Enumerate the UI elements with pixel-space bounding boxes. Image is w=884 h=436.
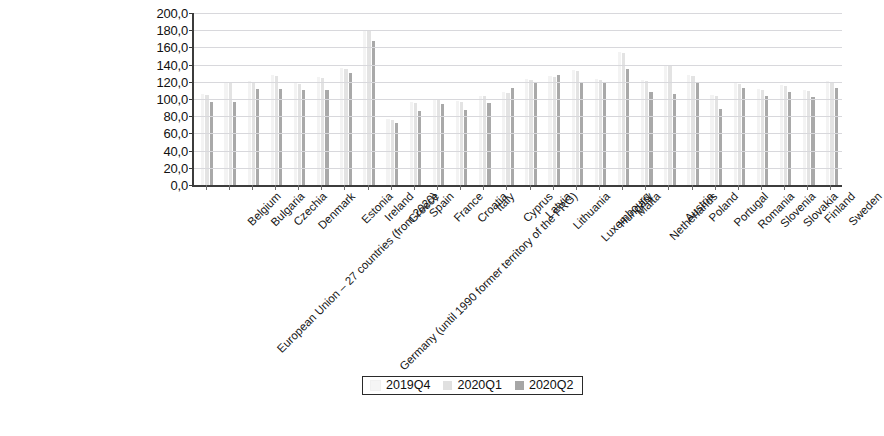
- gridline: [194, 168, 842, 169]
- y-axis-tick-label: 120,0: [140, 75, 188, 88]
- y-axis-tick-labels: 200,0180,0160,0140,0120,0100,080,060,040…: [140, 7, 188, 187]
- gridline: [194, 116, 842, 117]
- bar: [715, 96, 718, 185]
- bar: [761, 90, 764, 185]
- legend-swatch-2020q1: [443, 381, 452, 390]
- bar: [757, 89, 760, 185]
- bar: [464, 110, 467, 185]
- bar: [649, 92, 652, 185]
- gridline: [194, 65, 842, 66]
- y-axis-tick-label: 0,0: [140, 179, 188, 192]
- bar: [391, 120, 394, 185]
- bar: [483, 96, 486, 185]
- bar: [780, 85, 783, 185]
- y-axis-tick: [189, 116, 194, 117]
- y-axis-tick-label: 20,0: [140, 161, 188, 174]
- x-axis-tick-labels: European Union – 27 countries (from 2020…: [192, 188, 857, 368]
- y-axis-tick: [189, 65, 194, 66]
- y-axis-tick: [189, 185, 194, 186]
- bar: [618, 52, 621, 185]
- bar: [279, 89, 282, 185]
- y-axis-tick-label: 80,0: [140, 110, 188, 123]
- bar: [719, 109, 722, 185]
- bar: [395, 123, 398, 185]
- bar: [210, 102, 213, 185]
- bar: [302, 90, 305, 185]
- legend-swatch-2020q2: [515, 381, 524, 390]
- bar: [765, 96, 768, 185]
- bar: [673, 94, 676, 185]
- legend-label: 2020Q2: [529, 379, 573, 392]
- bar: [363, 30, 366, 185]
- bar: [456, 101, 459, 185]
- bar: [506, 93, 509, 185]
- legend-item[interactable]: 2020Q2: [515, 379, 573, 392]
- bar: [410, 102, 413, 185]
- bar: [372, 41, 375, 185]
- bar: [784, 86, 787, 185]
- bar: [418, 111, 421, 185]
- plot-area: [192, 13, 842, 187]
- y-axis-tick: [189, 30, 194, 31]
- bar: [460, 102, 463, 185]
- y-axis-tick-label: 140,0: [140, 58, 188, 71]
- bar: [710, 95, 713, 185]
- bar: [811, 97, 814, 185]
- bar: [622, 53, 625, 185]
- legend-item[interactable]: 2020Q1: [443, 379, 501, 392]
- y-axis-tick-label: 100,0: [140, 93, 188, 106]
- bar: [386, 119, 389, 185]
- bar: [803, 90, 806, 185]
- bar: [325, 90, 328, 185]
- legend-label: 2019Q4: [386, 379, 430, 392]
- bar: [201, 94, 204, 185]
- bar: [367, 31, 370, 185]
- bar: [205, 95, 208, 185]
- gridline: [194, 82, 842, 83]
- gridline: [194, 13, 842, 14]
- y-axis-tick-label: 160,0: [140, 41, 188, 54]
- bar: [788, 92, 791, 185]
- bar: [437, 100, 440, 185]
- bar: [835, 88, 838, 185]
- y-axis-tick-label: 200,0: [140, 7, 188, 20]
- bar: [479, 96, 482, 185]
- gridline: [194, 30, 842, 31]
- y-axis-tick-label: 180,0: [140, 24, 188, 37]
- bar: [807, 91, 810, 185]
- bar: [595, 79, 598, 185]
- bar: [321, 78, 324, 186]
- y-axis-tick: [189, 133, 194, 134]
- y-axis-tick: [189, 82, 194, 83]
- gridline: [194, 133, 842, 134]
- legend-label: 2020Q1: [457, 379, 501, 392]
- y-axis-tick: [189, 151, 194, 152]
- bar: [742, 88, 745, 185]
- bar: [256, 89, 259, 185]
- gridline: [194, 99, 842, 100]
- bar: [433, 99, 436, 185]
- legend-swatch-2019q4: [370, 380, 381, 391]
- y-axis-tick: [189, 99, 194, 100]
- bar: [233, 102, 236, 185]
- bar: [502, 92, 505, 185]
- y-axis-tick: [189, 168, 194, 169]
- y-axis-tick-label: 60,0: [140, 127, 188, 140]
- bar: [525, 79, 528, 185]
- y-axis-tick: [189, 47, 194, 48]
- bar: [511, 88, 514, 185]
- legend-item[interactable]: 2019Q4: [370, 379, 430, 392]
- y-axis-tick: [189, 13, 194, 14]
- gridline: [194, 47, 842, 48]
- gridline: [194, 151, 842, 152]
- chart-legend: 2019Q42020Q12020Q2: [362, 376, 583, 395]
- y-axis-tick-label: 40,0: [140, 144, 188, 157]
